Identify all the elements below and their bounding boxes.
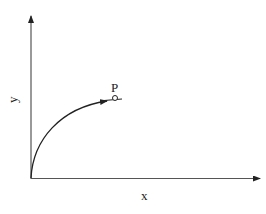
trajectory-curve [31,101,107,178]
point-p-label: P [111,80,118,95]
point-p-marker [113,96,118,101]
y-axis-label: y [5,96,20,103]
diagram-canvas: P x y [0,0,266,214]
x-axis-label: x [141,188,148,203]
